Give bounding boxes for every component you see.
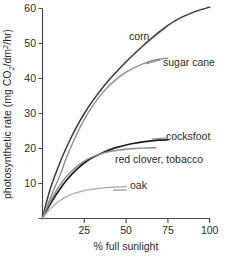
x-tick-label-25: 25 bbox=[78, 224, 90, 236]
leader-corn bbox=[148, 22, 173, 42]
x-tick-label-100: 100 bbox=[201, 224, 219, 236]
series-label-corn: corn bbox=[129, 30, 150, 42]
y-axis-title: photosynthetic rate (mg CO2/dm2/hr) bbox=[1, 29, 16, 199]
leader-cocksfoot bbox=[152, 138, 166, 139]
chart-svg: 10 20 30 40 50 60 25 50 75 100 % full su… bbox=[0, 0, 227, 257]
y-axis-title-part-2: /dm bbox=[1, 49, 13, 67]
x-tick-label-75: 75 bbox=[162, 224, 174, 236]
x-axis-tick-labels: 25 50 75 100 bbox=[78, 224, 218, 236]
curve-sugar-cane bbox=[43, 58, 168, 218]
series-curves-group bbox=[43, 7, 210, 218]
x-axis-title: % full sunlight bbox=[94, 240, 159, 252]
series-label-sugar-cane: sugar cane bbox=[163, 56, 215, 68]
curve-oak bbox=[43, 187, 127, 219]
series-label-cocksfoot: cocksfoot bbox=[166, 130, 210, 142]
y-axis-title-part-3: /hr) bbox=[1, 29, 13, 45]
y-axis-tick-labels: 10 20 30 40 50 60 bbox=[24, 2, 36, 189]
y-axis-title-part-1: photosynthetic rate (mg CO bbox=[1, 71, 13, 199]
x-tick-label-50: 50 bbox=[120, 224, 132, 236]
series-annotations-group: cornsugar canecocksfootred clover, tobac… bbox=[115, 30, 215, 191]
y-tick-label-30: 30 bbox=[24, 107, 36, 119]
y-tick-label-50: 50 bbox=[24, 37, 36, 49]
y-tick-label-10: 10 bbox=[24, 177, 36, 189]
x-axis-ticks bbox=[84, 219, 209, 224]
y-tick-label-60: 60 bbox=[24, 2, 36, 14]
series-label-red-clover-tobacco: red clover, tobacco bbox=[115, 153, 203, 165]
y-tick-label-20: 20 bbox=[24, 142, 36, 154]
y-tick-label-40: 40 bbox=[24, 72, 36, 84]
series-label-oak: oak bbox=[130, 179, 148, 191]
photosynthesis-light-response-chart: 10 20 30 40 50 60 25 50 75 100 % full su… bbox=[0, 0, 227, 257]
curve-cocksfoot bbox=[43, 140, 168, 219]
